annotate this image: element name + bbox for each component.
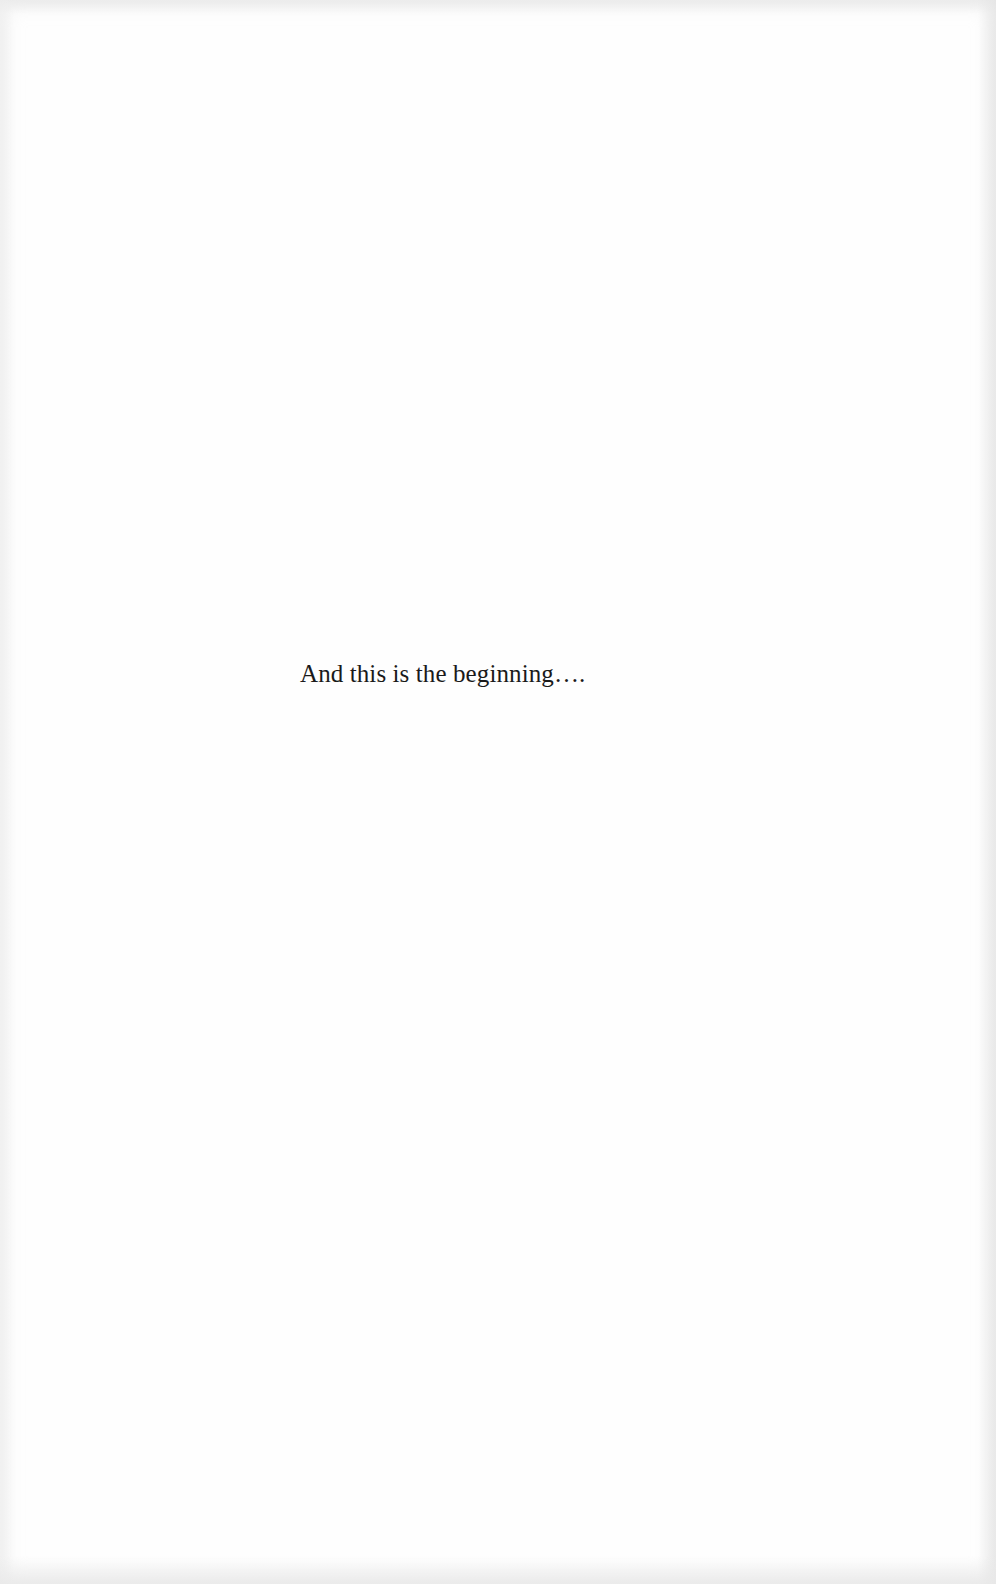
book-page: And this is the beginning….: [0, 0, 996, 1584]
page-edge-shadow-right: [978, 0, 996, 1584]
page-text: And this is the beginning….: [300, 660, 585, 688]
page-edge-shadow-left: [0, 0, 14, 1584]
